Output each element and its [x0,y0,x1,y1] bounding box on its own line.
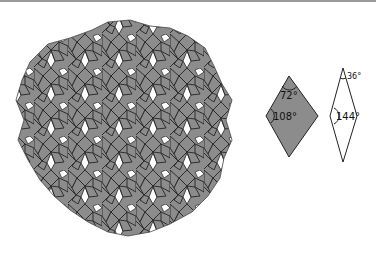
thick-rhombus: 72° 108° [266,76,318,157]
angle-label-36: 36° [347,72,361,81]
penrose-tiling [0,0,376,254]
angle-label-144: 144° [336,111,360,122]
penrose-figure: 72° 108° 36° 144° [0,0,376,254]
angle-label-108: 108° [273,111,297,122]
thin-rhombus: 36° 144° [330,68,361,162]
angle-label-72: 72° [280,90,298,101]
